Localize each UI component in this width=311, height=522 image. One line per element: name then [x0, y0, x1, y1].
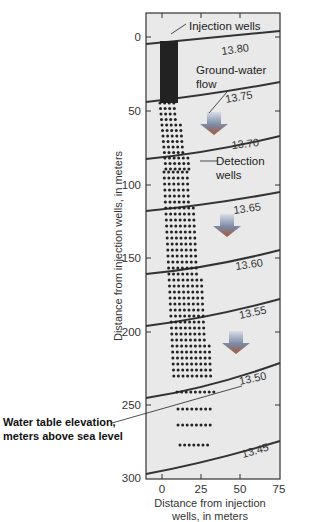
- x-axis-label-2: wells, in meters: [171, 510, 248, 522]
- detection-wells-label: Detection: [216, 155, 265, 167]
- svg-text:250: 250: [122, 399, 141, 411]
- svg-text:0: 0: [135, 31, 141, 43]
- ground-water-flow-label-2: flow: [196, 78, 217, 90]
- svg-text:50: 50: [128, 105, 141, 117]
- svg-text:300: 300: [122, 472, 141, 484]
- svg-text:75: 75: [273, 483, 286, 495]
- detection-wells-label-2: wells: [215, 169, 242, 181]
- svg-text:100: 100: [122, 179, 141, 191]
- water-table-label: Water table elevation,: [3, 416, 116, 428]
- svg-text:25: 25: [195, 483, 208, 495]
- y-axis-label: Distance from injection wells, in meters: [112, 150, 124, 341]
- x-axis-label: Distance from injection: [154, 497, 265, 509]
- svg-text:0: 0: [159, 483, 165, 495]
- injection-wells-label: Injection wells: [189, 20, 261, 32]
- x-axis: 0 25 50 75 Distance from injection wells…: [154, 483, 285, 522]
- well-diagram: 13.80 13.75 13.70 13.65 13.60 13.55 13.5…: [0, 0, 311, 522]
- svg-text:150: 150: [122, 252, 141, 264]
- ground-water-flow-label: Ground-water: [196, 64, 266, 76]
- svg-text:200: 200: [122, 326, 141, 338]
- injection-wells-block: [160, 41, 178, 103]
- water-table-label-2: meters above sea level: [3, 430, 123, 442]
- svg-text:50: 50: [234, 483, 247, 495]
